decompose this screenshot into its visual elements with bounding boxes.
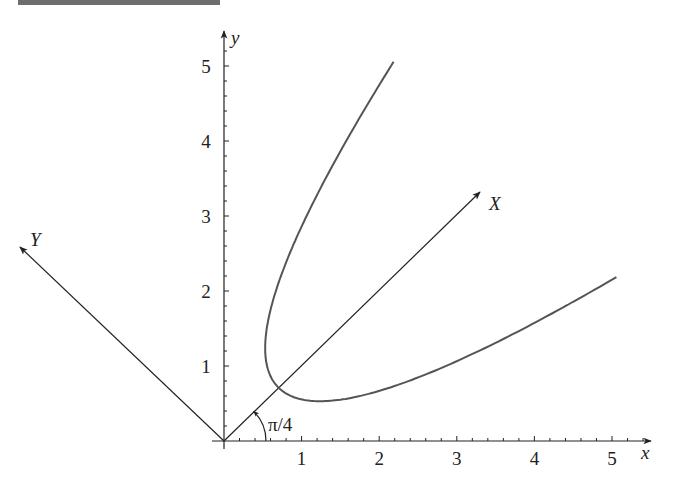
x-tick-label: 2 xyxy=(374,448,384,469)
y-tick-labels: 12345 xyxy=(201,56,211,377)
y-tick-label: 5 xyxy=(201,56,211,77)
chart: 12345 12345 x y X Y π/4 xyxy=(0,0,677,488)
rotated-X-axis xyxy=(224,192,480,441)
x-tick-label: 3 xyxy=(452,448,462,469)
angle-arc xyxy=(254,411,266,441)
x-tick-label: 1 xyxy=(297,448,307,469)
angle-label: π/4 xyxy=(268,414,293,435)
y-tick-label: 1 xyxy=(201,356,211,377)
rotated-X-label: X xyxy=(488,193,502,214)
y-tick-label: 3 xyxy=(201,206,211,227)
x-tick-label: 4 xyxy=(530,448,540,469)
rotated-Y-axis xyxy=(20,247,224,441)
minor-ticks xyxy=(224,51,643,441)
y-tick-label: 2 xyxy=(201,281,211,302)
x-tick-label: 5 xyxy=(607,448,617,469)
y-axis-label: y xyxy=(229,27,240,48)
rotated-Y-label: Y xyxy=(30,229,43,250)
x-axis-label: x xyxy=(640,442,650,463)
y-tick-label: 4 xyxy=(201,131,211,152)
x-tick-labels: 12345 xyxy=(297,448,617,469)
